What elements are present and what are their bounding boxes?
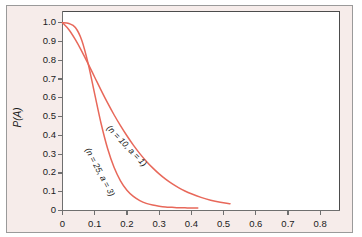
curve-1	[63, 23, 230, 204]
y-tick-label: 0.8	[14, 54, 56, 65]
y-tick-label: 1.0	[14, 16, 56, 27]
y-tick-label: 0.1	[14, 185, 56, 196]
y-axis-title: P(A)	[12, 95, 23, 141]
data-curves	[63, 23, 230, 208]
figure-root: 00.10.20.30.40.50.60.70.80.91.0 00.10.20…	[0, 0, 362, 237]
y-tick-label: 0.7	[14, 73, 56, 84]
y-tick-label: 0.9	[14, 35, 56, 46]
curve-2	[63, 23, 198, 208]
y-tick-label: 0	[14, 204, 56, 215]
x-tick-label: 0.8	[300, 218, 340, 229]
y-tick-label: 0.3	[14, 148, 56, 159]
y-tick-label: 0.2	[14, 166, 56, 177]
